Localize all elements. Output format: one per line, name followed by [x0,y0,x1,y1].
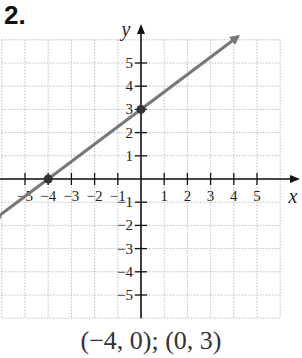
x-tick-label: −3 [63,188,79,204]
y-tick-label: −3 [117,241,133,257]
y-axis-label: y [120,18,131,41]
points-caption: (−4, 0); (0, 3) [0,326,302,356]
y-tick-label: −2 [117,217,133,233]
y-tick-label: 1 [126,148,134,164]
x-tick-label: 2 [184,188,192,204]
y-tick-label: 4 [126,78,134,94]
plotted-point [137,105,146,114]
x-tick-label: 3 [207,188,215,204]
y-tick-label: −4 [117,264,133,280]
y-tick-label: −1 [117,194,133,210]
x-tick-label: −4 [40,188,56,204]
y-tick-label: 5 [126,55,134,71]
coordinate-plane: −5−4−3−2−112345−5−4−3−2−112345xy [0,0,302,358]
x-axis-label: x [288,185,298,207]
x-tick-label: 5 [253,188,261,204]
y-tick-label: −5 [117,287,133,303]
x-tick-label: 1 [160,188,168,204]
y-tick-label: 2 [126,125,134,141]
x-tick-label: −2 [87,188,103,204]
x-tick-label: 4 [230,188,238,204]
plotted-point [44,175,53,184]
